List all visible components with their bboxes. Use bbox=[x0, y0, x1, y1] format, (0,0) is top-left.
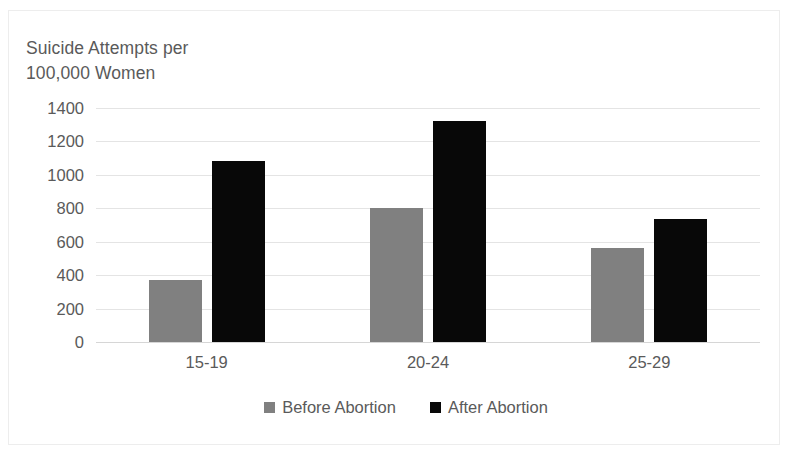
y-axis-tick-label: 800 bbox=[20, 200, 84, 217]
x-axis-category-labels: 15-1920-2425-29 bbox=[96, 352, 760, 380]
y-axis-tick-label: 1000 bbox=[20, 167, 84, 184]
y-axis-tick-label: 1400 bbox=[20, 100, 84, 117]
legend-swatch-icon bbox=[264, 402, 275, 413]
y-axis-tick-label: 0 bbox=[20, 334, 84, 351]
x-axis-tick-label: 25-29 bbox=[628, 352, 670, 372]
chart-title: Suicide Attempts per 100,000 Women bbox=[26, 36, 326, 86]
legend-label: After Abortion bbox=[448, 398, 548, 416]
chart-legend: Before AbortionAfter Abortion bbox=[0, 398, 812, 416]
bar-25-29-after-abortion bbox=[654, 219, 707, 342]
gridline bbox=[96, 342, 760, 343]
bar-15-19-after-abortion bbox=[212, 161, 265, 342]
legend-label: Before Abortion bbox=[282, 398, 396, 416]
bar-20-24-after-abortion bbox=[433, 121, 486, 342]
y-axis-tick-label: 1200 bbox=[20, 133, 84, 150]
x-axis-tick-label: 20-24 bbox=[407, 352, 449, 372]
bar-15-19-before-abortion bbox=[149, 280, 202, 342]
bars-layer bbox=[96, 108, 760, 342]
bar-20-24-before-abortion bbox=[370, 208, 423, 342]
legend-item-before-abortion[interactable]: Before Abortion bbox=[264, 398, 396, 416]
y-axis-tick-labels: 1400120010008006004002000 bbox=[18, 108, 84, 342]
y-axis-tick-label: 400 bbox=[20, 267, 84, 284]
bar-25-29-before-abortion bbox=[591, 248, 644, 342]
y-axis-tick-label: 200 bbox=[20, 300, 84, 317]
legend-item-after-abortion[interactable]: After Abortion bbox=[430, 398, 548, 416]
legend-swatch-icon bbox=[430, 402, 441, 413]
chart-container: Suicide Attempts per 100,000 Women 14001… bbox=[0, 0, 812, 460]
y-axis-tick-label: 600 bbox=[20, 233, 84, 250]
x-axis-tick-label: 15-19 bbox=[186, 352, 228, 372]
